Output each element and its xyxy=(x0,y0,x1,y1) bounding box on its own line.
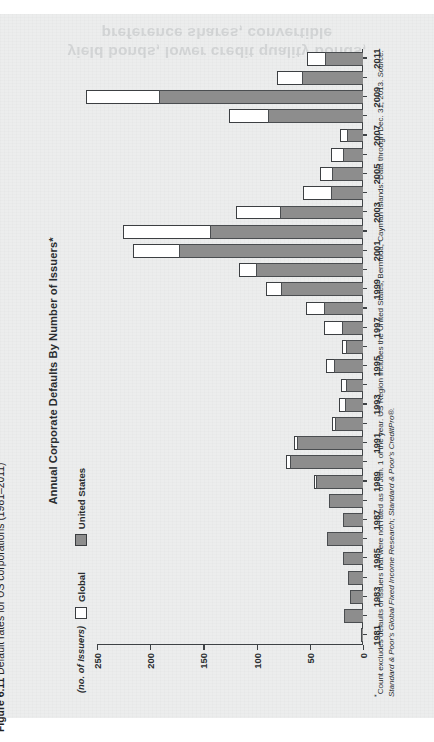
year-tick xyxy=(363,77,367,78)
figure-caption-inner: Figure 6.11 Default rates for US corpora… xyxy=(0,462,6,732)
bar-segment-global xyxy=(320,167,332,181)
bar-group xyxy=(324,321,363,335)
bar-segment-global xyxy=(340,129,347,143)
bar-group xyxy=(361,628,363,642)
bar-segment-global xyxy=(306,302,324,316)
bar-group xyxy=(266,282,363,296)
bar-segment-global xyxy=(123,225,210,239)
figure-caption: Figure 6.11 Default rates for US corpora… xyxy=(0,718,434,742)
year-tick xyxy=(363,57,367,58)
bar-segment-global xyxy=(324,321,342,335)
legend-swatch-global-icon xyxy=(75,607,87,619)
bar-group xyxy=(340,129,363,143)
bar-group xyxy=(342,340,363,354)
bar-segment-united-states xyxy=(280,206,363,220)
value-tick xyxy=(363,645,364,650)
bar-segment-global xyxy=(326,359,335,373)
value-tick xyxy=(203,645,204,650)
bar-segment-global xyxy=(239,263,256,277)
year-tick xyxy=(363,519,367,520)
bar-segment-united-states xyxy=(343,552,363,566)
year-tick xyxy=(363,557,367,558)
bar-segment-united-states xyxy=(329,494,363,508)
bar-segment-united-states xyxy=(334,359,363,373)
bar-segment-united-states xyxy=(331,186,363,200)
bar-segment-united-states xyxy=(342,321,363,335)
bar-segment-united-states xyxy=(159,90,363,104)
chart-footnote: *Count excludes defaults of issuers that… xyxy=(371,45,398,697)
bar-segment-united-states xyxy=(332,167,363,181)
rotated-figure-wrapper: Annual Corporate Defaults By Number of I… xyxy=(0,0,434,742)
bar-group xyxy=(286,455,363,469)
year-tick xyxy=(363,423,367,424)
year-tick xyxy=(363,96,367,97)
legend-item-united-states: United States xyxy=(75,468,87,546)
year-tick xyxy=(363,327,367,328)
footnote-text: Count excludes defaults of issuers that … xyxy=(376,78,385,695)
bar-segment-global xyxy=(277,71,303,85)
value-tick xyxy=(97,645,98,650)
chart-title: Annual Corporate Defaults By Number of I… xyxy=(47,39,59,703)
year-tick xyxy=(363,211,367,212)
value-tick-label: 150 xyxy=(198,653,209,669)
bar-segment-united-states xyxy=(347,129,363,143)
bar-group xyxy=(123,225,363,239)
bar-segment-united-states xyxy=(316,475,363,489)
figure-number: Figure 6.11 xyxy=(0,678,6,732)
value-tick xyxy=(150,645,151,650)
bar-group xyxy=(343,513,363,527)
value-tick xyxy=(310,645,311,650)
year-tick xyxy=(363,500,367,501)
year-tick xyxy=(363,307,367,308)
value-tick-label: 100 xyxy=(251,653,262,669)
bar-group xyxy=(306,302,363,316)
bar-group xyxy=(329,494,363,508)
bar-segment-global xyxy=(307,52,325,66)
bar-group xyxy=(331,148,363,162)
bar-segment-united-states xyxy=(268,109,363,123)
bar-segment-united-states xyxy=(361,628,363,642)
bar-group xyxy=(327,532,363,546)
year-tick xyxy=(363,596,367,597)
bar-group xyxy=(350,590,363,604)
bar-segment-united-states xyxy=(210,225,363,239)
value-tick-label: 250 xyxy=(92,653,103,669)
bar-group xyxy=(332,417,363,431)
year-tick xyxy=(363,154,367,155)
legend-label-global: Global xyxy=(76,572,87,602)
bar-group xyxy=(343,552,363,566)
year-tick xyxy=(363,115,367,116)
bar-segment-global xyxy=(266,282,281,296)
figure-caption-text: Default rates for US corporations (1981–… xyxy=(0,462,6,674)
legend-item-global: Global xyxy=(75,572,87,619)
year-tick xyxy=(363,461,367,462)
figure-page: yield bonds, lower credit quality bonds,… xyxy=(0,0,434,742)
bar-segment-united-states xyxy=(302,71,363,85)
year-tick xyxy=(363,173,367,174)
bar-segment-global xyxy=(133,244,179,258)
bar-segment-global xyxy=(229,109,268,123)
value-tick-label: 50 xyxy=(304,653,315,663)
bar-segment-united-states xyxy=(335,417,363,431)
bar-segment-global xyxy=(86,90,158,104)
year-tick xyxy=(363,442,367,443)
year-tick xyxy=(363,480,367,481)
footnote-marker: * xyxy=(373,694,380,697)
year-tick xyxy=(363,365,367,366)
bar-segment-united-states xyxy=(297,436,363,450)
bar-segment-global xyxy=(303,186,331,200)
footnote-source: Standard & Poor's Global Fixed Income Re… xyxy=(387,407,396,697)
year-tick xyxy=(363,230,367,231)
bar-group xyxy=(348,571,363,585)
legend-label-united-states: United States xyxy=(76,468,87,529)
chart-figure: Annual Corporate Defaults By Number of I… xyxy=(41,39,393,703)
year-tick xyxy=(363,192,367,193)
year-tick xyxy=(363,288,367,289)
bar-group xyxy=(133,244,363,258)
bar-group xyxy=(320,167,363,181)
bar-segment-united-states xyxy=(290,455,363,469)
bar-segment-united-states xyxy=(179,244,363,258)
value-axis-unit-label: (no. of Issuers) xyxy=(75,626,86,693)
year-tick xyxy=(363,634,367,635)
bar-segment-united-states xyxy=(346,340,363,354)
